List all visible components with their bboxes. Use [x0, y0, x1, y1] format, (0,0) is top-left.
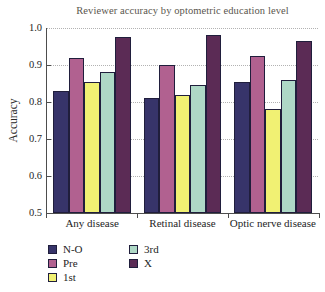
x-category-label-1: Any disease: [47, 217, 137, 229]
bar-Pre-retinal-disease: [159, 65, 175, 213]
legend-item-3rd: 3rd: [129, 244, 159, 255]
legend-swatch-1st: [48, 273, 57, 282]
legend-label-3rd: 3rd: [144, 244, 159, 255]
bar-3rd-retinal-disease: [190, 85, 206, 213]
bar-N-O-optic-nerve-disease: [234, 82, 250, 213]
bar-3rd-optic-nerve-disease: [281, 80, 297, 213]
y-axis-line: [46, 28, 47, 214]
bar-Pre-optic-nerve-disease: [250, 56, 266, 213]
gridline-0.9: [47, 65, 318, 66]
legend-swatch-x: [129, 259, 138, 268]
bar-N-O-any-disease: [53, 91, 69, 213]
legend-label-n-o: N-O: [63, 244, 83, 255]
bar-1st-retinal-disease: [175, 95, 191, 213]
legend-swatch-3rd: [129, 245, 138, 254]
legend-label-x: X: [144, 258, 152, 269]
x-axis-line: [46, 213, 319, 214]
legend-swatch-pre: [48, 259, 57, 268]
bar-3rd-any-disease: [100, 72, 116, 213]
legend-label-1st: 1st: [63, 272, 76, 283]
bar-chart-figure: Reviewer accuracy by optometric educatio…: [0, 0, 325, 292]
x-category-label-2: Retinal disease: [137, 217, 227, 229]
y-axis-tick-0.6: [47, 176, 51, 177]
y-tick-label-0.7: 0.7: [16, 133, 42, 144]
legend-item-1st: 1st: [48, 272, 76, 283]
legend-item-x: X: [129, 258, 152, 269]
x-axis-tick-1: [137, 213, 138, 218]
gridline-1: [47, 28, 318, 29]
bar-N-O-retinal-disease: [144, 98, 160, 213]
y-tick-label-0.8: 0.8: [16, 96, 42, 107]
y-axis-tick-0.8: [47, 102, 51, 103]
x-axis-tick-3: [319, 213, 320, 218]
bar-X-retinal-disease: [206, 35, 222, 213]
legend-item-n-o: N-O: [48, 244, 83, 255]
legend-label-pre: Pre: [63, 258, 78, 269]
y-tick-label-0.6: 0.6: [16, 170, 42, 181]
bar-1st-optic-nerve-disease: [265, 109, 281, 213]
x-axis-tick-2: [228, 213, 229, 218]
bar-X-any-disease: [115, 37, 131, 213]
y-axis-tick-0.9: [47, 65, 51, 66]
y-tick-label-0.5: 0.5: [16, 207, 42, 218]
chart-title: Reviewer accuracy by optometric educatio…: [47, 5, 318, 16]
y-tick-label-1: 1.0: [16, 22, 42, 33]
x-category-label-3: Optic nerve disease: [228, 217, 318, 229]
legend-item-pre: Pre: [48, 258, 78, 269]
y-axis-label: Accuracy: [7, 28, 20, 214]
bar-1st-any-disease: [84, 82, 100, 213]
y-axis-tick-0.7: [47, 139, 51, 140]
x-axis-tick-0: [46, 213, 47, 218]
legend-swatch-n-o: [48, 245, 57, 254]
bar-X-optic-nerve-disease: [296, 41, 312, 213]
bar-Pre-any-disease: [69, 58, 85, 213]
y-tick-label-0.9: 0.9: [16, 59, 42, 70]
